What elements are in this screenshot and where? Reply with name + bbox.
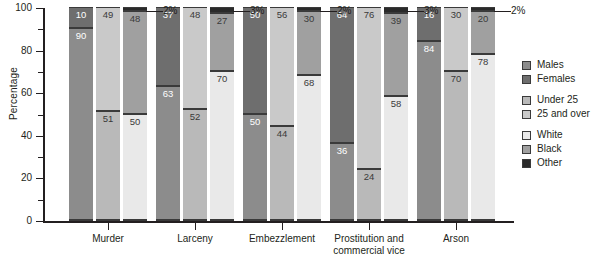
legend-item-females[interactable]: Females <box>522 72 606 86</box>
legend-swatch-icon <box>522 75 531 84</box>
legend-item-label: Males <box>537 59 564 71</box>
bar-segment[interactable]: 50 <box>243 114 267 221</box>
legend-swatch-icon <box>522 110 531 119</box>
y-tick-label: 40 <box>2 130 32 141</box>
bar-segment[interactable]: 3 <box>384 7 408 13</box>
bar-segment-value: 20 <box>478 12 489 24</box>
bar-segment[interactable]: 3 <box>210 7 234 13</box>
legend-item-males[interactable]: Males <box>522 58 606 72</box>
bar-segment-value: 90 <box>76 29 87 41</box>
bar-segment[interactable]: 2 <box>471 7 495 11</box>
bar-segment[interactable]: 48 <box>183 7 207 109</box>
stacked-bar[interactable]: 5248 <box>183 8 207 221</box>
bar-segment[interactable]: 70 <box>210 71 234 220</box>
stacked-bar[interactable]: 5149 <box>96 8 120 221</box>
bar-segment[interactable]: 49 <box>96 7 120 111</box>
bar-segment[interactable]: 56 <box>270 7 294 126</box>
bar-segment-value: 24 <box>364 170 375 182</box>
legend-swatch-icon <box>522 96 531 105</box>
other-callout-label: 2% <box>337 5 351 16</box>
other-callout-leader-line <box>407 11 424 12</box>
bar-segment[interactable]: 68 <box>297 75 321 220</box>
legend-item-under-25[interactable]: Under 25 <box>522 93 606 107</box>
stacked-bar[interactable]: 3664 <box>330 8 354 221</box>
x-tick <box>195 223 196 230</box>
y-tick-major <box>36 136 43 137</box>
stacked-bar[interactable]: 7030 <box>444 8 468 221</box>
bar-segment[interactable]: 48 <box>123 11 147 113</box>
x-category-label-line2: commercial vice <box>309 245 429 257</box>
other-callout-leader-line <box>233 11 250 12</box>
stacked-bar[interactable]: 6337 <box>156 8 180 221</box>
stacked-bar[interactable]: 5050 <box>243 8 267 221</box>
bar-segment[interactable]: 50 <box>243 7 267 114</box>
bar-segment[interactable]: 44 <box>270 126 294 220</box>
x-tick <box>108 223 109 230</box>
bar-segment-value: 39 <box>391 14 402 26</box>
stacked-bar[interactable]: 4456 <box>270 8 294 221</box>
stacked-bar[interactable]: 78202 <box>471 8 495 221</box>
bar-segment-value: 51 <box>103 112 114 124</box>
bar-segment-value: 50 <box>130 115 141 127</box>
bar-segment-value: 44 <box>277 127 288 139</box>
legend-item-white[interactable]: White <box>522 128 606 142</box>
bar-segment[interactable]: 76 <box>357 7 381 169</box>
bar-segment[interactable]: 39 <box>384 13 408 96</box>
bar-segment-value: 48 <box>190 8 201 20</box>
y-tick-major <box>36 51 43 52</box>
chart-root: Percentage 020406080100 9010514950482633… <box>0 0 606 263</box>
bar-segment[interactable]: 36 <box>330 143 354 220</box>
bar-segment[interactable]: 90 <box>69 28 93 220</box>
bar-segment-value: 30 <box>304 12 315 24</box>
stacked-bar[interactable]: 9010 <box>69 8 93 221</box>
x-axis-line <box>43 221 514 223</box>
y-tick-label: 60 <box>2 87 32 98</box>
y-tick-major <box>36 8 43 9</box>
legend-item-25-and-over[interactable]: 25 and over <box>522 107 606 121</box>
bar-segment-value: 58 <box>391 97 402 109</box>
bar-segment[interactable]: 63 <box>156 86 180 220</box>
bar-segment[interactable]: 70 <box>444 71 468 220</box>
bar-segment[interactable]: 64 <box>330 7 354 143</box>
stacked-bar[interactable]: 2476 <box>357 8 381 221</box>
stacked-bar[interactable]: 68302 <box>297 8 321 221</box>
legend-item-black[interactable]: Black <box>522 142 606 156</box>
bar-segment[interactable]: 78 <box>471 54 495 220</box>
bar-segment[interactable]: 20 <box>471 11 495 54</box>
stacked-bar[interactable]: 50482 <box>123 8 147 221</box>
other-callout-label: 2% <box>163 5 177 16</box>
x-category-label: Arson <box>396 233 516 245</box>
bar-segment[interactable]: 10 <box>69 7 93 28</box>
bar-segment[interactable]: 30 <box>444 7 468 71</box>
bar-segment[interactable]: 37 <box>156 7 180 86</box>
bar-segment-value: 78 <box>478 55 489 67</box>
bar-segment[interactable]: 2 <box>123 7 147 11</box>
y-tick-label: 20 <box>2 172 32 183</box>
bar-segment-value: 10 <box>76 8 87 20</box>
bar-segment[interactable]: 27 <box>210 13 234 71</box>
bar-segment-value: 52 <box>190 110 201 122</box>
bar-segment[interactable]: 52 <box>183 109 207 220</box>
x-category-label-line1: Arson <box>396 233 516 245</box>
bar-segment[interactable]: 58 <box>384 96 408 220</box>
y-tick-minor <box>38 72 43 73</box>
stacked-bar[interactable]: 8416 <box>417 8 441 221</box>
legend-item-other[interactable]: Other <box>522 156 606 170</box>
legend-item-label: Under 25 <box>537 94 578 106</box>
bar-group: 9010514950482 <box>69 8 149 221</box>
legend-item-label: 25 and over <box>537 108 590 120</box>
bar-segment-value: 49 <box>103 8 114 20</box>
y-tick-major <box>36 221 43 222</box>
bar-segment[interactable]: 51 <box>96 111 120 220</box>
bar-segment[interactable]: 24 <box>357 169 381 220</box>
stacked-bar[interactable]: 58393 <box>384 8 408 221</box>
bar-segment[interactable]: 2 <box>297 7 321 11</box>
bar-segment[interactable]: 50 <box>123 114 147 221</box>
bar-segment[interactable]: 30 <box>297 11 321 75</box>
bar-segment-value: 68 <box>304 76 315 88</box>
x-tick <box>456 223 457 230</box>
bar-segment-value: 27 <box>217 14 228 26</box>
bar-segment[interactable]: 84 <box>417 41 441 220</box>
stacked-bar[interactable]: 70273 <box>210 8 234 221</box>
y-tick-minor <box>38 200 43 201</box>
